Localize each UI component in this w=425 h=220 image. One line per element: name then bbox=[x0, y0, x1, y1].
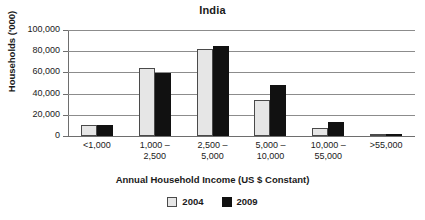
gridline bbox=[68, 72, 415, 73]
bar-2004-5 bbox=[370, 134, 386, 136]
bar-2004-4 bbox=[312, 128, 328, 136]
bar-2009-0 bbox=[97, 125, 113, 136]
bar-2009-1 bbox=[155, 73, 171, 136]
bar-2004-3 bbox=[254, 100, 270, 136]
y-tick-label: 20,000 bbox=[2, 109, 60, 119]
y-tick-label: 100,000 bbox=[2, 24, 60, 34]
y-tick-mark bbox=[63, 136, 68, 137]
gridline bbox=[68, 30, 415, 31]
legend-swatch-2009 bbox=[222, 197, 232, 207]
chart-title: India bbox=[0, 4, 425, 16]
y-tick-label: 40,000 bbox=[2, 88, 60, 98]
bar-chart: India Households ('000) 020,00040,00060,… bbox=[0, 0, 425, 220]
y-tick-label: 0 bbox=[2, 130, 60, 140]
legend-item-2004[interactable]: 2004 bbox=[167, 196, 203, 207]
x-tick-label-line: 55,000 bbox=[291, 151, 365, 162]
legend-item-2009[interactable]: 2009 bbox=[222, 196, 258, 207]
x-tick-label-line: >55,000 bbox=[349, 140, 423, 151]
chart-legend: 20042009 bbox=[0, 196, 425, 207]
x-axis-line bbox=[68, 136, 415, 137]
gridline bbox=[68, 94, 415, 95]
plot-area bbox=[68, 30, 415, 136]
gridline bbox=[68, 115, 415, 116]
bar-2009-2 bbox=[213, 46, 229, 136]
bar-2004-0 bbox=[81, 125, 97, 136]
y-tick-label: 80,000 bbox=[2, 45, 60, 55]
legend-label: 2009 bbox=[237, 196, 258, 207]
bar-2009-3 bbox=[270, 85, 286, 136]
bar-2009-4 bbox=[328, 122, 344, 136]
bar-2009-5 bbox=[386, 134, 402, 136]
y-tick-label: 60,000 bbox=[2, 66, 60, 76]
x-axis-title: Annual Household Income (US $ Constant) bbox=[0, 174, 425, 185]
gridline bbox=[68, 51, 415, 52]
legend-swatch-2004 bbox=[167, 197, 177, 207]
bar-2004-1 bbox=[139, 68, 155, 136]
bar-2004-2 bbox=[197, 49, 213, 136]
x-tick-label: >55,000 bbox=[349, 140, 423, 151]
legend-label: 2004 bbox=[182, 196, 203, 207]
